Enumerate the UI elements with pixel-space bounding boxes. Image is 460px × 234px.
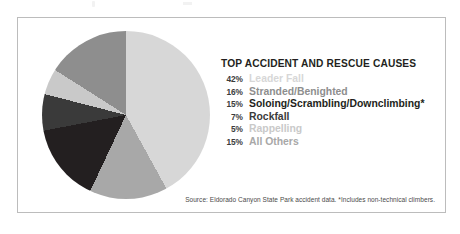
legend-item-label: Stranded/Benighted: [249, 86, 348, 97]
legend: TOP ACCIDENT AND RESCUE CAUSES 42%Leader…: [221, 58, 436, 148]
pie-chart: [42, 31, 210, 199]
legend-item: 15%All Others: [221, 136, 436, 147]
legend-item-label: Leader Fall: [249, 73, 304, 84]
pie-slices: [42, 31, 210, 199]
source-note: Source: Eldorado Canyon State Park accid…: [18, 196, 435, 203]
legend-item-percent: 15%: [221, 99, 243, 109]
legend-item-label: Rockfall: [249, 111, 289, 122]
legend-item: 15%Soloing/Scrambling/Downclimbing*: [221, 98, 436, 109]
legend-item-label: Soloing/Scrambling/Downclimbing*: [249, 98, 425, 109]
legend-item-label: Rappelling: [249, 123, 302, 134]
legend-item-percent: 7%: [221, 112, 243, 122]
legend-item-percent: 42%: [221, 74, 243, 84]
page-remnant-mark: [92, 1, 95, 7]
legend-item: 16%Stranded/Benighted: [221, 86, 436, 97]
page-remnant-mark: [183, 2, 192, 5]
legend-rows: 42%Leader Fall16%Stranded/Benighted15%So…: [221, 73, 436, 147]
legend-item-percent: 16%: [221, 87, 243, 97]
legend-item-percent: 15%: [221, 137, 243, 147]
legend-item-percent: 5%: [221, 124, 243, 134]
legend-item-label: All Others: [249, 136, 299, 147]
chart-panel: TOP ACCIDENT AND RESCUE CAUSES 42%Leader…: [17, 17, 446, 213]
legend-item: 42%Leader Fall: [221, 73, 436, 84]
legend-title: TOP ACCIDENT AND RESCUE CAUSES: [221, 58, 436, 69]
legend-item: 5%Rappelling: [221, 123, 436, 134]
chart-figure: TOP ACCIDENT AND RESCUE CAUSES 42%Leader…: [0, 0, 460, 234]
legend-item: 7%Rockfall: [221, 111, 436, 122]
